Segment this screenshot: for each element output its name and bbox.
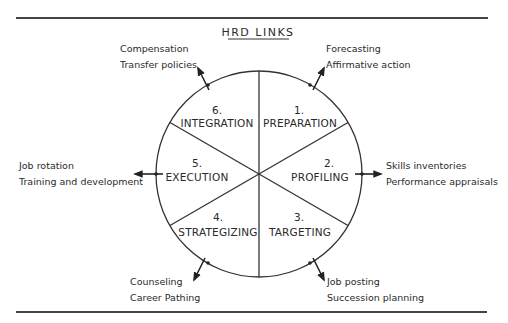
links-preparation: Forecasting Affirmative action (326, 43, 411, 70)
segment-name: EXECUTION (166, 171, 229, 183)
link-item: Compensation (120, 43, 189, 54)
hrd-links-diagram: HRD LINKS 1. PREPARATION 2. PROFILING 3.… (0, 0, 508, 323)
segment-number: 3. (294, 211, 304, 223)
link-item: Training and development (18, 176, 143, 187)
junction-dot (206, 261, 210, 265)
segment-strategizing: 4. STRATEGIZING (178, 211, 257, 238)
links-targeting: Job posting Succession planning (326, 276, 424, 303)
diagram-title: HRD LINKS (221, 26, 294, 39)
link-item: Career Pathing (130, 292, 200, 303)
link-arrow-preparation (313, 68, 324, 90)
link-item: Affirmative action (326, 59, 411, 70)
segment-number: 5. (192, 157, 202, 169)
link-arrow-targeting (313, 258, 324, 280)
link-item: Transfer policies (119, 59, 197, 70)
segment-targeting: 3. TARGETING (268, 211, 331, 238)
link-item: Performance appraisals (386, 176, 498, 187)
links-profiling: Skills inventories Performance appraisal… (386, 160, 498, 187)
segment-number: 1. (294, 104, 304, 116)
segment-name: INTEGRATION (180, 117, 253, 129)
link-item: Skills inventories (386, 160, 466, 171)
segment-profiling: 2. PROFILING (291, 157, 349, 183)
segment-integration: 6. INTEGRATION (180, 104, 253, 129)
segment-name: STRATEGIZING (178, 226, 257, 238)
links-integration: Compensation Transfer policies (119, 43, 197, 70)
segment-number: 6. (212, 104, 222, 116)
link-arrow-strategizing (194, 258, 205, 280)
segment-name: TARGETING (268, 226, 331, 238)
junction-dot (360, 172, 364, 176)
junction-dot (308, 83, 312, 87)
link-item: Succession planning (327, 292, 424, 303)
segment-execution: 5. EXECUTION (166, 157, 229, 183)
junction-dot (206, 83, 210, 87)
links-execution: Job rotation Training and development (18, 160, 143, 187)
junction-dot (154, 172, 158, 176)
segment-preparation: 1. PREPARATION (263, 104, 337, 129)
junction-dot (308, 261, 312, 265)
links-strategizing: Counseling Career Pathing (130, 276, 200, 303)
link-item: Job posting (326, 276, 380, 287)
segment-number: 2. (324, 157, 334, 169)
segment-name: PROFILING (291, 171, 349, 183)
link-item: Counseling (130, 276, 183, 287)
segment-number: 4. (213, 211, 223, 223)
segment-name: PREPARATION (263, 117, 337, 129)
link-item: Forecasting (326, 43, 381, 54)
link-item: Job rotation (18, 160, 74, 171)
